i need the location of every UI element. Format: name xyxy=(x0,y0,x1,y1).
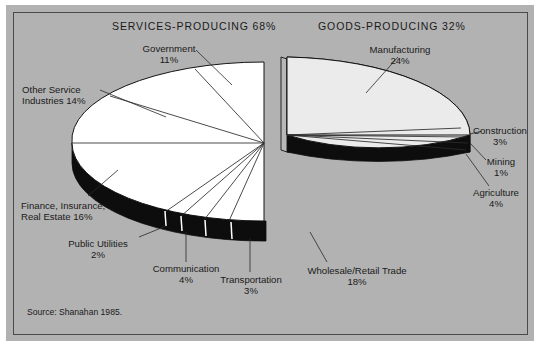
label-other-service-industries-line1: Other Service xyxy=(22,84,122,95)
label-finance-insurance-real-estate-line1: Finance, Insurance, xyxy=(21,200,136,211)
leader-wholesale xyxy=(310,232,327,262)
rim-tick-public-utilities xyxy=(165,211,166,226)
label-transportation-line1: Transportation xyxy=(204,274,298,285)
header-services-producing: SERVICES-PRODUCING 68% xyxy=(112,20,276,32)
label-finance-insurance-real-estate-line2: Real Estate 16% xyxy=(21,211,136,222)
label-finance-insurance-real-estate: Finance, Insurance, Real Estate 16% xyxy=(21,200,136,223)
label-manufacturing-line1: Manufacturing xyxy=(355,44,445,55)
leader-public-utilities xyxy=(139,226,166,237)
label-agriculture-line1: Agriculture xyxy=(461,187,531,198)
label-public-utilities-line1: Public Utilities xyxy=(55,238,141,249)
label-agriculture: Agriculture 4% xyxy=(461,187,531,210)
goods-cut-wall xyxy=(281,57,287,152)
header-goods-producing-text: GOODS-PRODUCING 32% xyxy=(318,20,466,32)
source-note-text: Source: Shanahan 1985. xyxy=(27,307,122,317)
label-public-utilities: Public Utilities 2% xyxy=(55,238,141,261)
rim-tick-transportation xyxy=(205,220,206,236)
label-government: Government 11% xyxy=(126,43,212,66)
label-other-service-industries: Other Service Industries 14% xyxy=(22,84,122,107)
rim-tick-wholesale xyxy=(231,222,232,239)
label-manufacturing-line2: 24% xyxy=(355,55,445,66)
label-manufacturing: Manufacturing 24% xyxy=(355,44,445,67)
label-agriculture-line2: 4% xyxy=(461,198,531,209)
label-government-line2: 11% xyxy=(126,54,212,65)
header-services-producing-text: SERVICES-PRODUCING 68% xyxy=(112,20,276,32)
label-construction: Construction 3% xyxy=(464,125,536,148)
label-construction-line1: Construction xyxy=(464,125,536,136)
label-transportation: Transportation 3% xyxy=(204,274,298,297)
source-note: Source: Shanahan 1985. xyxy=(27,307,122,317)
goods-producing-wedge-group xyxy=(281,57,470,161)
label-transportation-line2: 3% xyxy=(204,285,298,296)
goods-top-face-arc xyxy=(287,57,470,135)
rim-tick-communication xyxy=(181,216,182,231)
label-mining-line1: Mining xyxy=(473,156,529,167)
label-mining: Mining 1% xyxy=(473,156,529,179)
label-communication-line1: Communication xyxy=(136,263,236,274)
label-mining-line2: 1% xyxy=(473,167,529,178)
label-other-service-industries-line2: Industries 14% xyxy=(22,95,122,106)
label-wholesale-retail-trade-line1: Wholesale/Retail Trade xyxy=(293,265,421,276)
label-wholesale-retail-trade-line2: 18% xyxy=(293,276,421,287)
header-goods-producing: GOODS-PRODUCING 32% xyxy=(318,20,466,32)
services-cut-wall xyxy=(264,221,266,241)
label-wholesale-retail-trade: Wholesale/Retail Trade 18% xyxy=(293,265,421,288)
label-public-utilities-line2: 2% xyxy=(55,249,141,260)
label-construction-line2: 3% xyxy=(464,136,536,147)
label-government-line1: Government xyxy=(126,43,212,54)
pie-chart-figure: SERVICES-PRODUCING 68% GOODS-PRODUCING 3… xyxy=(0,0,542,348)
